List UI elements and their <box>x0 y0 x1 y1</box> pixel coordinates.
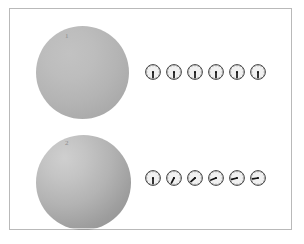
clock-icon <box>249 63 267 81</box>
clock-icon <box>186 63 204 81</box>
figure-root: 1 2 <box>0 0 304 244</box>
clock-icon <box>249 169 267 187</box>
clock-icon <box>165 169 183 187</box>
clock-row-1 <box>144 63 267 81</box>
clock-icon <box>144 169 162 187</box>
clock-icon <box>228 63 246 81</box>
clock-icon <box>207 63 225 81</box>
clock-icon <box>228 169 246 187</box>
clock-row-2 <box>144 169 267 187</box>
clock-icon <box>207 169 225 187</box>
clock-icon <box>165 63 183 81</box>
sphere-1 <box>36 26 129 119</box>
row-label-2: 2 <box>65 140 69 147</box>
row-label-1: 1 <box>65 33 69 40</box>
figure-frame: 1 2 <box>9 8 292 230</box>
clock-icon <box>186 169 204 187</box>
sphere-2 <box>36 135 131 230</box>
clock-icon <box>144 63 162 81</box>
